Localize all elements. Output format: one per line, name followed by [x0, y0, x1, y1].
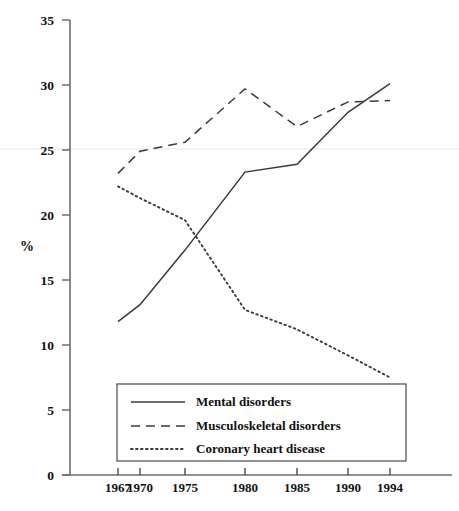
series-line-0	[118, 84, 390, 322]
chart-canvas: 05101520253035 1967197019751980198519901…	[0, 0, 459, 511]
legend-label-1: Musculoskeletal disorders	[196, 418, 341, 433]
x-tick-label: 1985	[284, 480, 311, 495]
y-axis-ticks: 05101520253035	[41, 13, 71, 483]
x-tick-label: 1970	[127, 480, 153, 495]
line-chart: % 05101520253035 19671970197519801985199…	[0, 0, 459, 511]
x-tick-label: 1980	[232, 480, 258, 495]
x-axis-ticks: 1967197019751980198519901994	[105, 468, 404, 495]
series-line-1	[118, 89, 390, 173]
x-tick-label: 1975	[172, 480, 199, 495]
series-lines	[118, 84, 390, 378]
y-axis-title: %	[8, 239, 34, 255]
y-tick-label: 10	[41, 338, 55, 353]
y-tick-label: 35	[41, 13, 55, 28]
legend-label-0: Mental disorders	[196, 394, 291, 409]
x-tick-label: 1994	[377, 480, 404, 495]
y-tick-label: 25	[41, 143, 55, 158]
legend-label-2: Coronary heart disease	[196, 441, 325, 456]
y-tick-label: 15	[41, 273, 55, 288]
x-tick-label: 1990	[335, 480, 361, 495]
y-tick-label: 0	[47, 468, 54, 483]
y-tick-label: 20	[41, 208, 55, 223]
y-tick-label: 5	[47, 403, 54, 418]
y-tick-label: 30	[41, 78, 55, 93]
